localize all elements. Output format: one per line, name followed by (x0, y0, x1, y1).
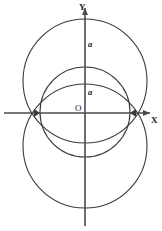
y-axis-label: Y (79, 3, 86, 12)
diagram-canvas (0, 0, 162, 231)
segment-label-a-lower: a (88, 88, 92, 97)
figure-root: Y X O a a (0, 0, 162, 231)
segment-label-a-upper: a (88, 40, 92, 49)
left-intersection-marker-icon (34, 109, 40, 117)
x-axis-arrow-icon (143, 110, 150, 116)
right-intersection-marker-icon (130, 109, 136, 117)
origin-label: O (75, 104, 82, 113)
x-axis-label: X (151, 116, 158, 125)
